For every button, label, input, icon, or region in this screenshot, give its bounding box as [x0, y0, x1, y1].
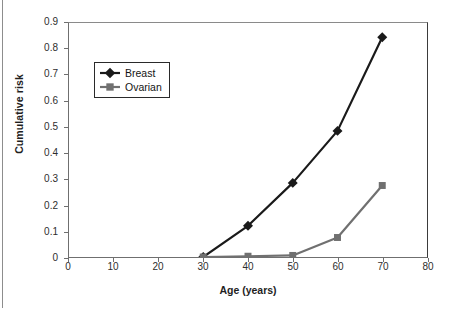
- x-tick-label: 30: [190, 262, 216, 272]
- x-tick-label: 60: [325, 262, 351, 272]
- x-tick-mark: [203, 258, 204, 262]
- x-tick-label: 40: [235, 262, 261, 272]
- data-point: [200, 254, 207, 257]
- y-tick-mark: [64, 127, 68, 128]
- series-line: [203, 186, 382, 258]
- series-ovarian: [200, 182, 386, 257]
- x-tick-mark: [113, 258, 114, 262]
- y-tick-label: 0.7: [44, 69, 58, 79]
- y-tick-mark: [64, 22, 68, 23]
- x-tick-mark: [68, 258, 69, 262]
- y-tick-mark: [64, 232, 68, 233]
- series-line: [203, 37, 382, 257]
- y-tick-mark: [64, 101, 68, 102]
- x-tick-mark: [158, 258, 159, 262]
- data-point: [334, 234, 341, 241]
- y-tick-label: 0.2: [44, 201, 58, 211]
- y-tick-mark: [64, 179, 68, 180]
- legend-item-ovarian[interactable]: Ovarian: [99, 80, 162, 94]
- chart-figure: 00.10.20.30.40.50.60.70.80.9 Cumulative …: [0, 0, 459, 309]
- y-tick-mark: [64, 153, 68, 154]
- y-tick-mark: [64, 206, 68, 207]
- x-tick-mark: [338, 258, 339, 262]
- series-canvas: [69, 23, 427, 257]
- y-tick-label: 0.3: [44, 174, 58, 184]
- data-point: [245, 253, 252, 257]
- legend-label: Breast: [125, 67, 155, 79]
- x-tick-mark: [293, 258, 294, 262]
- x-tick-label: 70: [370, 262, 396, 272]
- y-tick-mark: [64, 74, 68, 75]
- chart-legend: BreastOvarian: [94, 62, 170, 98]
- square-marker-icon: [99, 81, 121, 93]
- data-point: [379, 182, 386, 189]
- x-tick-mark: [383, 258, 384, 262]
- series-breast: [198, 32, 387, 257]
- y-tick-label: 0.9: [44, 17, 58, 27]
- legend-item-breast[interactable]: Breast: [99, 66, 162, 80]
- x-tick-label: 10: [100, 262, 126, 272]
- y-tick-label: 0.4: [44, 148, 58, 158]
- y-tick-label: 0.6: [44, 96, 58, 106]
- data-point: [289, 252, 296, 257]
- x-tick-label: 20: [145, 262, 171, 272]
- diamond-marker-icon: [99, 67, 121, 79]
- x-tick-label: 0: [55, 262, 81, 272]
- y-tick-label: 0.8: [44, 43, 58, 53]
- y-tick-mark: [64, 48, 68, 49]
- x-tick-label: 80: [415, 262, 441, 272]
- data-point: [377, 32, 387, 42]
- x-tick-mark: [428, 258, 429, 262]
- y-tick-label: 0.1: [44, 227, 58, 237]
- y-tick-label: 0.5: [44, 122, 58, 132]
- plot-area: [68, 22, 428, 258]
- legend-label: Ovarian: [125, 81, 162, 93]
- x-axis-title: Age (years): [68, 284, 428, 296]
- x-tick-label: 50: [280, 262, 306, 272]
- x-tick-mark: [248, 258, 249, 262]
- y-axis-title: Cumulative risk: [13, 49, 25, 179]
